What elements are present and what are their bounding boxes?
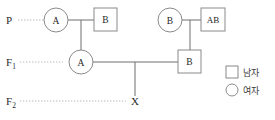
generation-label-p: P [6,14,12,26]
legend-female-circle-icon [226,84,238,96]
legend-item-male: 남자 [226,66,260,78]
individual-p-left-female[interactable]: A [44,8,68,32]
genotype-label: B [186,57,192,67]
unknown-offspring-label: X [131,95,139,107]
individual-f2-offspring[interactable]: X [131,95,139,107]
individual-f1-male[interactable]: B [178,50,201,73]
individual-p-right-male[interactable]: AB [201,8,225,31]
genotype-label: AB [207,15,220,25]
individual-f1-female[interactable]: A [69,50,93,74]
legend-male-label: 남자 [243,68,260,78]
genotype-label: A [53,16,60,26]
genotype-label: A [78,58,85,68]
legend-male-square-icon [226,66,238,78]
generation-label-f2: F2 [6,95,16,110]
generation-label-f1: F1 [6,56,16,71]
legend-female-label: 여자 [243,85,260,96]
individual-p-right-female[interactable]: B [158,8,182,32]
genotype-label: B [102,15,108,25]
genotype-label: B [167,16,173,26]
legend: 남자 여자 [226,66,260,96]
pedigree-canvas: P F1 F2 A B [0,0,275,120]
pedigree-diagram: P F1 F2 A B [0,0,275,120]
individual-p-left-male[interactable]: B [94,8,117,31]
generation-labels: P F1 F2 [6,14,16,110]
legend-item-female: 여자 [226,84,260,96]
